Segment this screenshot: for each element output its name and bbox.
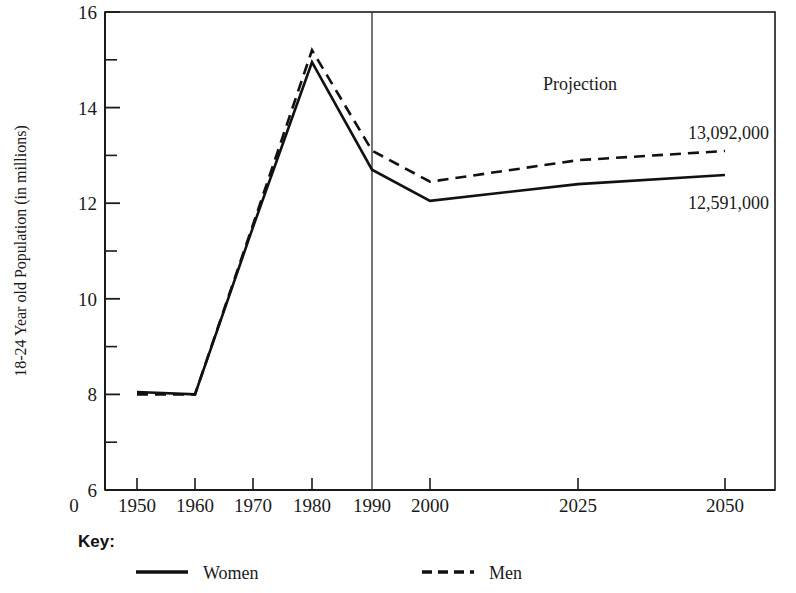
population-line-chart: 16 14 12 10 8 6 18-24 Year old Populatio… (0, 0, 796, 593)
chart-page: 16 14 12 10 8 6 18-24 Year old Populatio… (0, 0, 796, 593)
x-tick-label-2025: 2025 (559, 495, 597, 516)
x-tick-label-1970: 1970 (234, 495, 272, 516)
series-line-women (137, 62, 725, 394)
y-tick-label-6: 6 (88, 480, 98, 501)
legend-label-men: Men (489, 563, 522, 583)
y-axis-minor-ticks (105, 60, 117, 442)
projection-label: Projection (543, 74, 617, 94)
x-tick-label-1980: 1980 (293, 495, 331, 516)
y-tick-label-12: 12 (78, 193, 97, 214)
x-tick-label-1990: 1990 (353, 495, 391, 516)
y-tick-label-14: 14 (78, 98, 98, 119)
x-tick-label-1950: 1950 (118, 495, 156, 516)
legend-item-women[interactable]: Women (136, 563, 259, 583)
y-tick-label-16: 16 (78, 2, 97, 23)
y-tick-label-8: 8 (88, 384, 98, 405)
x-tick-label-2000: 2000 (411, 495, 449, 516)
y-axis-title: 18-24 Year old Population (in millions) (12, 125, 30, 377)
y-tick-label-10: 10 (78, 289, 97, 310)
plot-area-border (105, 12, 775, 490)
x-tick-label-2050: 2050 (706, 495, 744, 516)
women-end-value-label: 12,591,000 (688, 193, 769, 213)
x-tick-label-1960: 1960 (176, 495, 214, 516)
x-tick-label-0: 0 (69, 495, 79, 516)
legend-label-women: Women (203, 563, 259, 583)
key-title: Key: (78, 532, 115, 551)
men-end-value-label: 13,092,000 (688, 123, 769, 143)
x-axis-ticks (137, 478, 725, 490)
series-line-men (137, 50, 725, 394)
legend-item-men[interactable]: Men (422, 563, 522, 583)
